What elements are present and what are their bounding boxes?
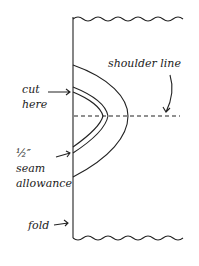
seam-allowance-label: ½″ seam allowance — [16, 146, 72, 191]
top-torn-edge — [73, 17, 183, 21]
arrow-cut-here — [48, 89, 70, 95]
cut-here-line1: cut — [22, 82, 47, 97]
seam-allowance-line1: ½″ — [16, 146, 72, 161]
seam-curve-inner — [73, 92, 103, 147]
fold-label: fold — [28, 218, 49, 233]
bottom-torn-edge — [73, 236, 183, 240]
seam-allowance-line2: seam — [16, 161, 72, 176]
arrow-fold — [54, 220, 68, 226]
cut-here-line2: here — [22, 97, 47, 112]
cut-here-label: cut here — [22, 82, 47, 112]
seam-allowance-line3: allowance — [16, 176, 72, 191]
shoulder-line-label: shoulder line — [108, 56, 181, 71]
arrow-shoulder-line — [163, 75, 172, 112]
